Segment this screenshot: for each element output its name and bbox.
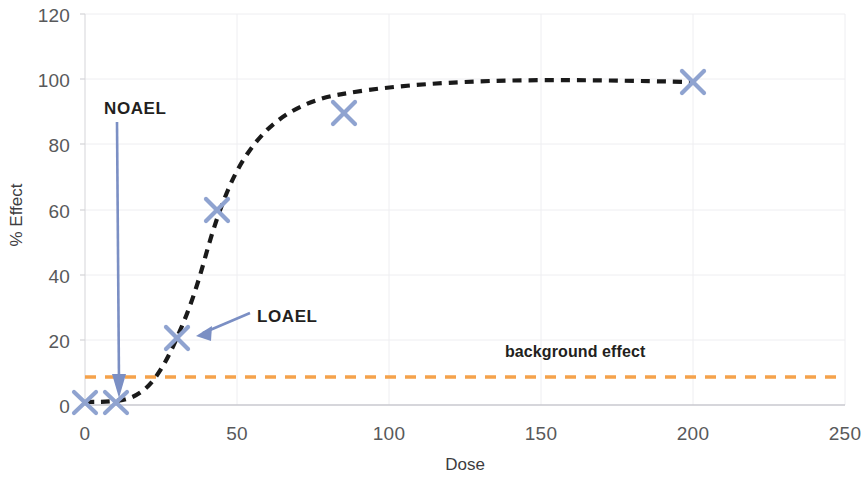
y-tick-label: 60 — [48, 201, 70, 222]
x-tick-label: 0 — [80, 423, 91, 444]
y-tick-label: 80 — [48, 135, 70, 156]
x-tick-label: 150 — [525, 423, 557, 444]
chart-canvas: 120 100 80 60 40 20 0 0 50 100 150 200 2… — [0, 0, 865, 478]
noael-label: NOAEL — [104, 99, 167, 118]
y-tick-label: 20 — [48, 331, 70, 352]
x-tick-label: 250 — [829, 423, 861, 444]
background-effect-label: background effect — [505, 343, 646, 360]
x-tick-label: 200 — [677, 423, 709, 444]
dose-response-chart: 120 100 80 60 40 20 0 0 50 100 150 200 2… — [0, 0, 865, 478]
x-axis-title: Dose — [445, 455, 485, 474]
y-tick-label: 40 — [48, 266, 70, 287]
y-tick-marks — [80, 14, 85, 405]
y-axis-title: % Effect — [7, 183, 26, 246]
loael-label: LOAEL — [257, 307, 318, 326]
x-tick-label: 100 — [373, 423, 405, 444]
y-tick-label: 120 — [38, 5, 70, 26]
y-tick-label: 100 — [38, 70, 70, 91]
x-tick-label: 50 — [226, 423, 248, 444]
y-tick-label: 0 — [59, 396, 70, 417]
